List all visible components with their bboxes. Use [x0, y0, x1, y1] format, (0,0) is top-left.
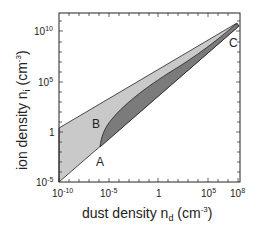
- svg-text:1010: 1010: [34, 25, 53, 37]
- svg-text:10-5: 10-5: [100, 187, 117, 199]
- svg-text:10-5: 10-5: [36, 176, 53, 188]
- chart: 10-10 10-5 1 105 108 10-5 1 105 1010 A B…: [0, 0, 261, 241]
- label-c: C: [229, 36, 238, 50]
- inner-region-dark: [100, 24, 239, 147]
- svg-text:1: 1: [156, 188, 162, 199]
- svg-text:105: 105: [201, 187, 216, 199]
- y-tick-labels: 10-5 1 105 1010: [34, 25, 55, 188]
- x-axis-label: dust density nd (cm-3): [82, 205, 212, 223]
- svg-text:105: 105: [38, 76, 53, 88]
- svg-text:1: 1: [49, 127, 55, 138]
- label-b: B: [92, 117, 100, 131]
- label-a: A: [96, 155, 104, 169]
- svg-text:108: 108: [230, 187, 245, 199]
- x-tick-labels: 10-10 10-5 1 105 108: [52, 187, 245, 199]
- y-axis-label: ion density ni (cm-3): [14, 50, 32, 170]
- svg-text:10-10: 10-10: [52, 187, 73, 199]
